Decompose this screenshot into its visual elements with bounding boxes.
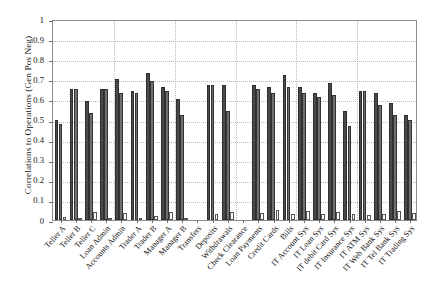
bar (123, 213, 127, 220)
y-axis-tick-label: 1 (0, 15, 44, 25)
x-axis-tick (350, 220, 351, 223)
y-axis-tick-label: 0 (0, 216, 44, 226)
y-axis-tick (49, 21, 53, 22)
x-axis-tick-label: Credit Cards (245, 224, 280, 261)
x-axis-tick (258, 220, 259, 223)
bar (363, 91, 367, 220)
bar (135, 93, 139, 220)
y-axis-tick (49, 162, 53, 163)
x-axis-tick-label: Deposits (193, 224, 219, 251)
y-axis-tick-label: 0.3 (0, 155, 44, 165)
bar (93, 212, 97, 220)
y-axis-tick (49, 61, 53, 62)
x-axis-tick (61, 220, 62, 223)
x-axis-tick-label: IT Tel Bank Sys (359, 224, 401, 270)
x-axis-tick (167, 220, 168, 223)
bar (104, 89, 108, 220)
x-axis-tick (380, 220, 381, 223)
bar (321, 214, 325, 220)
y-axis-tick-label: 0.7 (0, 75, 44, 85)
bar (317, 97, 321, 220)
x-axis-tick (365, 220, 366, 223)
x-axis-tick-label: Trader A (117, 224, 143, 252)
bar (306, 211, 310, 220)
bar (382, 214, 386, 220)
bar (348, 126, 352, 220)
x-axis-tick (289, 220, 290, 223)
bar (150, 81, 154, 220)
bar (393, 115, 397, 220)
x-axis-tick-label: Trader B (132, 224, 158, 252)
y-axis-tick-label: 0.8 (0, 55, 44, 65)
bar (74, 89, 78, 220)
bar (154, 216, 158, 220)
bar (184, 218, 188, 220)
x-axis-tick-label: IT Insurance Sys (312, 224, 356, 271)
bar (302, 93, 306, 220)
x-axis-tick (410, 220, 411, 223)
y-axis-tick-label: 0.4 (0, 135, 44, 145)
bar (332, 95, 336, 220)
x-axis-tick (274, 220, 275, 223)
x-axis-tick-label: IT debit Card Sys (295, 224, 341, 273)
bar (260, 213, 264, 220)
x-axis-tick (197, 220, 198, 223)
y-axis-tick (49, 142, 53, 143)
bar (59, 124, 63, 220)
x-axis-tick (106, 220, 107, 223)
bar (139, 218, 143, 220)
bar (226, 111, 230, 220)
bar (291, 214, 295, 220)
y-axis-tick-label: 0.9 (0, 35, 44, 45)
x-axis-tick-label: IT Web Bank Sys (341, 224, 386, 273)
bar (378, 105, 382, 220)
bar (169, 212, 173, 220)
x-axis-tick-label: IT Trading Sys (377, 224, 417, 267)
bar (108, 218, 112, 220)
y-axis-tick-label: 0.6 (0, 95, 44, 105)
x-axis-tick (137, 220, 138, 223)
y-axis-tick (49, 222, 53, 223)
x-axis-tick-label: IT ATM Sys (337, 224, 371, 260)
bar (256, 89, 260, 220)
bar-layer (53, 21, 416, 220)
bar (180, 115, 184, 220)
y-axis-tick-label: 0.2 (0, 175, 44, 185)
x-axis-tick (304, 220, 305, 223)
bar (367, 215, 371, 220)
x-axis-tick (76, 220, 77, 223)
x-axis-tick-label: Bills (278, 224, 295, 242)
x-axis-tick (91, 220, 92, 223)
bar (397, 211, 401, 220)
x-axis-tick-label: Teller B (58, 224, 82, 250)
bar (63, 217, 67, 220)
x-axis-tick-label: IT Loan Sys (292, 224, 326, 260)
bar (119, 93, 123, 220)
y-axis-tick (49, 41, 53, 42)
x-axis-tick-label: Transfers (177, 224, 204, 253)
bar (276, 210, 280, 220)
x-axis-tick (182, 220, 183, 223)
x-axis-tick-label: Manager A (142, 224, 173, 257)
x-axis-tick (152, 220, 153, 223)
y-axis-tick-label: 0.5 (0, 115, 44, 125)
bar (211, 85, 215, 220)
x-axis-tick-label: Teller A (42, 224, 66, 250)
y-axis-tick (49, 202, 53, 203)
bar (165, 91, 169, 220)
bar (336, 212, 340, 220)
y-axis-tick (49, 182, 53, 183)
x-axis-tick (213, 220, 214, 223)
x-axis-tick-label: Loan Payments (224, 224, 265, 268)
bar (408, 120, 412, 221)
bar (78, 218, 82, 220)
x-axis-tick-label: Accounts Admin (84, 224, 128, 271)
y-axis-tick (49, 81, 53, 82)
y-axis-tick (49, 101, 53, 102)
x-axis-tick-label: Loan Admin (78, 224, 112, 261)
bar (230, 212, 234, 220)
bar (271, 93, 275, 220)
x-axis-tick-label: Withdrawals (200, 224, 235, 261)
x-axis-tick (334, 220, 335, 223)
x-axis-tick (228, 220, 229, 223)
